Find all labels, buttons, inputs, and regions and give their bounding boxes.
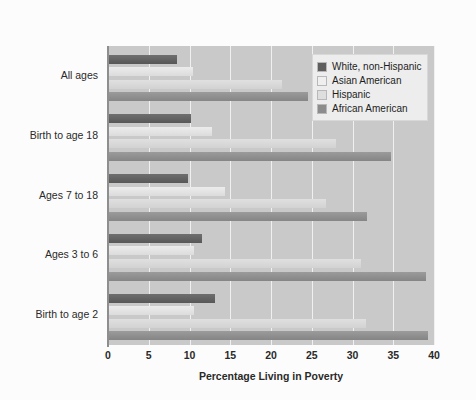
x-tick-25: 25 bbox=[306, 349, 318, 361]
category-label-4: Birth to age 2 bbox=[0, 308, 98, 320]
category-label-3: Ages 3 to 6 bbox=[0, 248, 98, 260]
legend-label: White, non-Hispanic bbox=[332, 61, 421, 72]
legend-label: Hispanic bbox=[332, 89, 370, 100]
category-label-2: Ages 7 to 18 bbox=[0, 189, 98, 201]
category-label-0: All ages bbox=[0, 69, 98, 81]
chart-legend: White, non-HispanicAsian AmericanHispani… bbox=[312, 54, 428, 121]
x-tick-15: 15 bbox=[224, 349, 236, 361]
legend-label: Asian American bbox=[332, 75, 401, 86]
x-tick-5: 5 bbox=[146, 349, 152, 361]
x-tick-10: 10 bbox=[184, 349, 196, 361]
legend-swatch-icon bbox=[317, 104, 327, 114]
x-tick-35: 35 bbox=[387, 349, 399, 361]
legend-item[interactable]: Asian American bbox=[317, 74, 423, 87]
legend-item[interactable]: White, non-Hispanic bbox=[317, 60, 423, 73]
x-tick-0: 0 bbox=[105, 349, 111, 361]
x-tick-30: 30 bbox=[347, 349, 359, 361]
x-axis-title: Percentage Living in Poverty bbox=[108, 370, 434, 382]
legend-item[interactable]: African American bbox=[317, 102, 423, 115]
x-tick-40: 40 bbox=[428, 349, 440, 361]
legend-swatch-icon bbox=[317, 76, 327, 86]
legend-item[interactable]: Hispanic bbox=[317, 88, 423, 101]
legend-swatch-icon bbox=[317, 62, 327, 72]
category-label-1: Birth to age 18 bbox=[0, 129, 98, 141]
x-tick-20: 20 bbox=[265, 349, 277, 361]
poverty-bar-chart: All agesBirth to age 18Ages 7 to 18Ages … bbox=[0, 0, 476, 400]
legend-swatch-icon bbox=[317, 90, 327, 100]
legend-label: African American bbox=[332, 103, 408, 114]
x-axis-tick-labels: 0510152025303540 bbox=[108, 349, 434, 367]
